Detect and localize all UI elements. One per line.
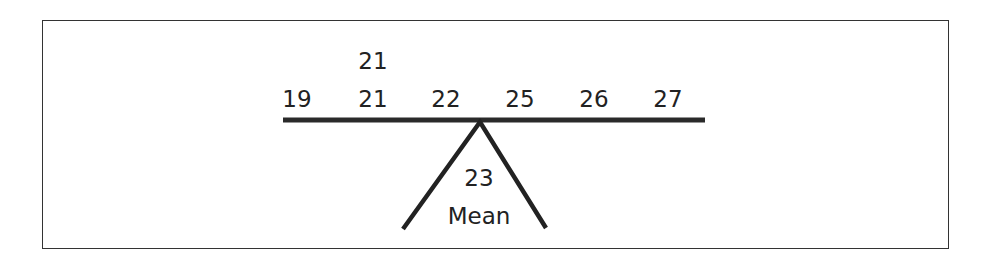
data-value-label: 25: [505, 88, 534, 111]
mean-caption: Mean: [448, 205, 511, 228]
mean-value-label: 23: [464, 167, 493, 190]
data-value-label: 21: [358, 50, 387, 73]
data-value-label: 19: [282, 88, 311, 111]
data-value-label: 27: [653, 88, 682, 111]
data-value-label: 21: [358, 88, 387, 111]
data-value-label: 26: [579, 88, 608, 111]
data-value-label: 22: [431, 88, 460, 111]
